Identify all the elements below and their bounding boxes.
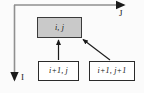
node-label-current: i, j — [55, 24, 64, 32]
axis-label-i: I — [21, 73, 24, 82]
node-box-below-right[interactable]: i+1, j+1 — [89, 61, 135, 81]
axis-label-j: J — [119, 9, 123, 18]
node-box-below[interactable]: i+1, j — [38, 61, 79, 81]
arrow-below-right-to-current — [83, 40, 110, 61]
diagram-canvas: J I i, j i+1, j i+1, j+1 — [0, 0, 144, 93]
node-label-below: i+1, j — [49, 67, 68, 75]
node-box-current[interactable]: i, j — [37, 17, 82, 38]
node-label-below-right: i+1, j+1 — [98, 67, 127, 75]
arrow-below-right-to-current-line — [83, 40, 110, 61]
